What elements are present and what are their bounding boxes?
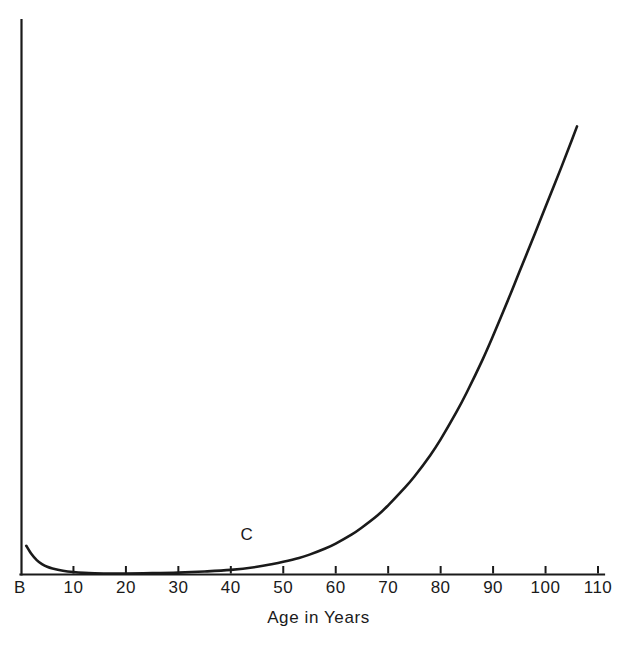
chart-figure: B 102030405060708090100110 C Age in Year… [0,0,639,660]
chart-plot-area [0,0,639,660]
x-axis-tick-label-40: 40 [221,578,241,598]
x-axis-tick-label-100: 100 [531,578,561,598]
x-axis-tick-label-10: 10 [64,578,84,598]
x-axis-tick-label-60: 60 [326,578,346,598]
x-axis-origin-label: B [14,578,25,598]
x-axis-tick-label-110: 110 [584,578,613,598]
x-axis-tick-label-20: 20 [116,578,136,598]
x-axis-tick-label-90: 90 [483,578,503,598]
x-axis-tick-label-30: 30 [168,578,188,598]
x-axis-tick-label-70: 70 [378,578,398,598]
x-axis-tick-label-50: 50 [273,578,293,598]
x-axis-title: Age in Years [267,608,370,628]
x-axis-tick-label-80: 80 [431,578,451,598]
data-series-line-c [26,126,577,573]
series-annotation-c: C [240,525,252,545]
